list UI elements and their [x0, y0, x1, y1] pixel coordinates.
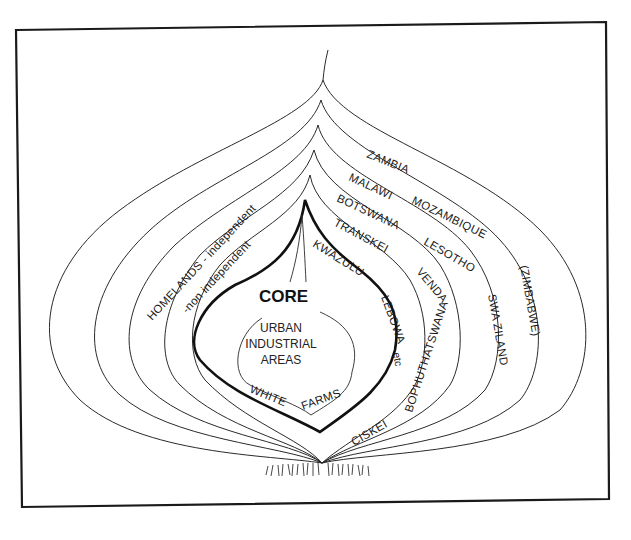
roots [266, 463, 369, 476]
label-farms: FARMS [300, 387, 343, 412]
label-mozambique: MOZAMBIQUE [410, 194, 489, 241]
label-lebowa: LEBOWA [379, 294, 408, 346]
label-areas: AREAS [261, 353, 302, 367]
label-ciskei: CISKEI [349, 418, 389, 448]
label-urban: URBAN [260, 321, 302, 335]
label-core: CORE [259, 287, 308, 306]
diagram-frame [16, 22, 609, 507]
label-lesotho: LESOTHO [422, 235, 477, 274]
label-kwazulu: KWAZULU [311, 238, 366, 279]
stem [323, 50, 328, 80]
label-swaziland: SWA ZILAND [486, 293, 510, 366]
label-bophuthatswana: BOPHUTHATSWANA [402, 300, 449, 414]
label-industrial: INDUSTRIAL [245, 337, 317, 351]
label-malawi: MALAWI [347, 171, 394, 202]
label-zimbabwe: (ZIMBABWE) [518, 264, 542, 337]
label-zambia: ZAMBIA [365, 148, 411, 176]
label-white: WHITE [248, 383, 288, 409]
label-etc: etc [391, 351, 405, 367]
label-venda: VENDA [414, 266, 450, 305]
onion-diagram: ZAMBIA (ZIMBABWE) MALAWI MOZAMBIQUE SWA … [0, 0, 631, 540]
